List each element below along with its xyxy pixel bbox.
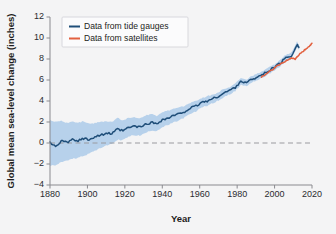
uncertainty-band-area	[50, 41, 299, 166]
y-tick-label: 0	[39, 137, 44, 147]
y-axis-ticks: 121086420−2−4	[34, 11, 50, 189]
y-axis-title: Global mean sea-level change (inches)	[5, 14, 16, 189]
legend-label-tide-gauges: Data from tide gauges	[84, 21, 169, 31]
x-tick-label: 1920	[115, 189, 135, 199]
x-tick-label: 1960	[190, 189, 210, 199]
uncertainty-band	[50, 41, 299, 166]
y-tick-label: 12	[34, 11, 44, 21]
y-tick-label: 8	[39, 53, 44, 63]
satellite-series-line	[261, 43, 312, 77]
x-axis-ticks: 18801900192019401960198020002020	[40, 185, 322, 199]
y-tick-label: 6	[39, 74, 44, 84]
x-tick-label: 1880	[40, 189, 60, 199]
x-tick-label: 2000	[265, 189, 285, 199]
y-tick-label: 10	[34, 32, 44, 42]
y-tick-label: −4	[34, 179, 44, 189]
x-tick-label: 1980	[227, 189, 247, 199]
y-tick-label: −2	[34, 158, 44, 168]
x-tick-label: 1940	[152, 189, 172, 199]
chart-canvas: 121086420−2−4 18801900192019401960198020…	[0, 0, 336, 234]
x-tick-label: 2020	[302, 189, 322, 199]
y-tick-label: 2	[39, 116, 44, 126]
x-tick-label: 1900	[77, 189, 97, 199]
chart-legend: Data from tide gauges Data from satellit…	[62, 17, 188, 47]
legend-label-satellites: Data from satellites	[84, 33, 158, 43]
y-tick-label: 4	[39, 95, 44, 105]
x-axis-title: Year	[171, 213, 191, 224]
sea-level-chart: 121086420−2−4 18801900192019401960198020…	[0, 0, 336, 234]
